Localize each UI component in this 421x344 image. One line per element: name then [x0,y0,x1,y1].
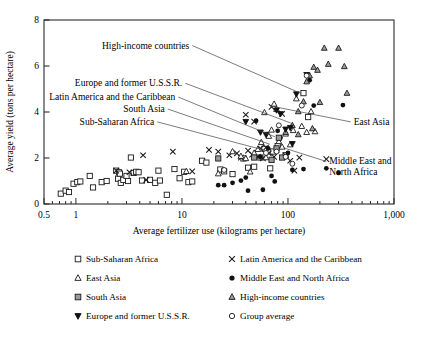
marker-filled-circle [290,168,295,173]
marker-open-square [252,164,257,169]
chart-legend: Sub-Saharan AfricaLatin America and the … [75,254,362,321]
x-tick-label: 0.5 [38,210,50,220]
marker-filled-circle [239,178,244,183]
marker-open-triangle [75,275,81,281]
marker-cross [189,169,194,174]
marker-shaded-triangle [311,64,317,69]
marker-filled-circle [216,183,221,188]
marker-filled-circle [324,166,329,171]
annotation-label: Latin America and the Caribbean [49,92,175,102]
marker-cross [140,153,145,158]
marker-cross [216,149,221,154]
marker-filled-circle [266,146,271,151]
marker-open-square [157,178,162,183]
marker-filled-circle [230,180,235,185]
marker-open-square [78,179,83,184]
y-axis-title: Average yield (tons per hectare) [5,51,16,173]
legend-label: High-income countries [240,292,325,302]
legend-item[interactable]: South Asia [75,292,126,302]
marker-cross [170,149,175,154]
figure-canvas: 02468Average yield (tons per hectare)0.5… [0,0,421,344]
marker-open-triangle [308,108,314,113]
marker-shaded-square [216,156,221,161]
marker-open-square [66,189,71,194]
marker-filled-circle [229,275,234,280]
marker-open-circle [299,103,304,108]
marker-filled-circle [311,103,316,108]
marker-open-square [190,179,195,184]
marker-shaded-square [75,294,81,300]
marker-shaded-triangle [341,63,347,68]
marker-open-circle [274,149,279,154]
marker-open-triangle [271,101,277,106]
marker-open-square [306,114,311,119]
marker-open-circle [290,161,295,166]
marker-open-square [164,192,169,197]
annotation-leader-line [178,97,275,137]
annotation-leader-line [192,46,301,94]
legend-item[interactable]: East Asia [75,273,121,283]
marker-open-square [172,166,177,171]
series-high-income-countries [283,45,350,137]
legend-item[interactable]: Sub-Saharan Africa [75,254,158,264]
y-axis: 02468Average yield (tons per hectare) [5,15,50,209]
marker-cross [297,155,302,160]
marker-filled-circle [254,118,259,123]
legend-label: Latin America and the Caribbean [240,254,362,264]
legend-item[interactable]: Group average [229,311,294,321]
marker-open-circle [283,154,288,159]
marker-shaded-square [276,135,281,140]
legend-label: East Asia [86,273,120,283]
marker-shaded-square [269,157,274,162]
marker-filled-circle [243,175,248,180]
marker-open-circle [229,313,234,318]
marker-shaded-triangle [317,99,323,104]
legend-item[interactable]: Europe and former U.S.S.R. [75,311,190,321]
y-tick-label: 8 [34,15,39,25]
marker-shaded-triangle [344,90,350,95]
marker-open-square [204,160,209,165]
y-tick-label: 4 [34,107,39,117]
marker-open-square [90,185,95,190]
marker-filled-circle [222,183,227,188]
marker-cross [206,147,211,152]
marker-open-triangle [304,129,310,134]
marker-filled-circle [301,167,306,172]
marker-open-circle [304,73,309,78]
marker-filled-circle [275,128,280,133]
annotation-label: South Asia [123,104,165,114]
marker-open-square [230,172,235,177]
x-tick-label: 1 [74,210,79,220]
marker-open-square [125,178,130,183]
annotation-label: High-income countries [102,41,190,51]
annotation-leader-line [284,148,327,162]
x-tick-label: 100 [281,210,296,220]
x-tick-label: 10 [177,210,187,220]
marker-filled-circle [258,154,263,159]
legend-label: Middle East and North Africa [240,273,349,283]
marker-filled-circle [260,187,265,192]
marker-open-square [268,166,273,171]
legend-label: Group average [240,311,294,321]
marker-open-triangle [269,127,275,132]
scatter-plot-figure: 02468Average yield (tons per hectare)0.5… [0,0,421,344]
annotation-leader-line [273,106,351,121]
marker-open-square [156,168,161,173]
legend-item[interactable]: Middle East and North Africa [229,273,349,283]
marker-filled-circle [341,103,346,108]
marker-open-circle [276,123,281,128]
legend-item[interactable]: High-income countries [229,292,325,302]
marker-cross [229,256,235,262]
marker-open-square [136,170,141,175]
marker-filled-circle [246,188,251,193]
marker-open-circle [222,167,227,172]
x-axis-title: Average fertilizer use (kilograms per he… [133,226,306,237]
marker-open-triangle [299,123,305,128]
annotation-label: Sub-Saharan Africa [80,117,155,127]
marker-open-square [75,256,81,262]
marker-open-square [99,180,104,185]
marker-open-square [87,173,92,178]
legend-item[interactable]: Latin America and the Caribbean [229,254,362,264]
x-tick-label: 1,000 [383,210,405,220]
marker-open-circle [263,150,268,155]
